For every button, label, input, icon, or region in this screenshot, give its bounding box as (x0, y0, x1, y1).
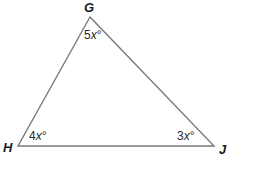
triangle-ghj (18, 17, 214, 146)
angle-j-coef: 3 (177, 129, 184, 143)
angle-h-coef: 4 (29, 129, 36, 143)
angle-h-unit: ° (42, 129, 47, 143)
triangle-diagram (0, 0, 254, 171)
vertex-label-g: G (84, 1, 94, 14)
angle-label-g: 5x° (84, 29, 102, 41)
angle-g-coef: 5 (84, 28, 91, 42)
angle-j-unit: ° (190, 129, 195, 143)
vertex-label-j: J (219, 143, 226, 156)
angle-g-unit: ° (97, 28, 102, 42)
angle-label-h: 4x° (29, 130, 47, 142)
vertex-label-h: H (3, 141, 12, 154)
angle-label-j: 3x° (177, 130, 195, 142)
